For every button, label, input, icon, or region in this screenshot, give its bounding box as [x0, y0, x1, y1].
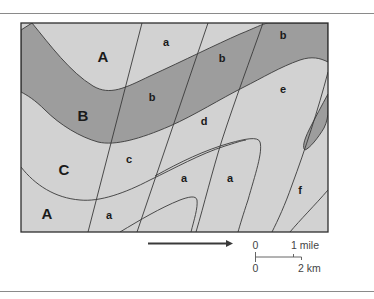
unit-label-a-bottom: a	[106, 209, 113, 221]
scale-top-left-label: 0	[253, 239, 259, 251]
scale-top-right-label: 1 mile	[291, 239, 319, 251]
scale-bottom-left-label: 0	[253, 262, 259, 274]
unit-label-b-3: b	[149, 91, 156, 103]
unit-label-a-mid-2: a	[227, 172, 234, 184]
unit-label-e: e	[280, 83, 286, 95]
scale-bar: 0 1 mile 0 2 km	[253, 239, 321, 274]
unit-label-b-2: b	[280, 29, 287, 41]
geologic-map-figure: A B C A a b b b d e c a a f a 0 1 mile 0…	[0, 0, 374, 299]
map-area	[21, 23, 328, 232]
formation-label-A-bottom: A	[42, 205, 53, 222]
unit-label-b-1: b	[219, 52, 226, 64]
unit-label-a-mid-1: a	[181, 172, 188, 184]
formation-label-C: C	[59, 161, 70, 178]
formation-label-A-top: A	[98, 48, 109, 65]
direction-arrow	[148, 240, 233, 247]
formation-label-B: B	[78, 107, 89, 124]
unit-label-a-top: a	[163, 36, 170, 48]
arrowhead-icon	[226, 240, 233, 247]
unit-label-f: f	[298, 184, 302, 196]
unit-label-d: d	[201, 115, 208, 127]
scale-bottom-right-label: 2 km	[298, 262, 321, 274]
unit-label-c: c	[126, 153, 132, 165]
